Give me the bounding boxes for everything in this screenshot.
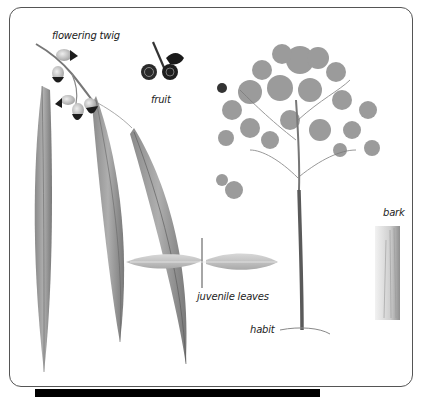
botanical-illustration	[0, 0, 423, 397]
label-bark: bark	[383, 207, 405, 218]
label-flowering-twig: flowering twig	[52, 30, 120, 41]
label-fruit: fruit	[151, 94, 171, 105]
label-habit: habit	[250, 324, 275, 335]
fruit-illustration	[141, 42, 184, 80]
juvenile-leaves	[126, 238, 278, 288]
label-juvenile-leaves: juvenile leaves	[197, 291, 269, 302]
bark-sample	[375, 226, 400, 320]
